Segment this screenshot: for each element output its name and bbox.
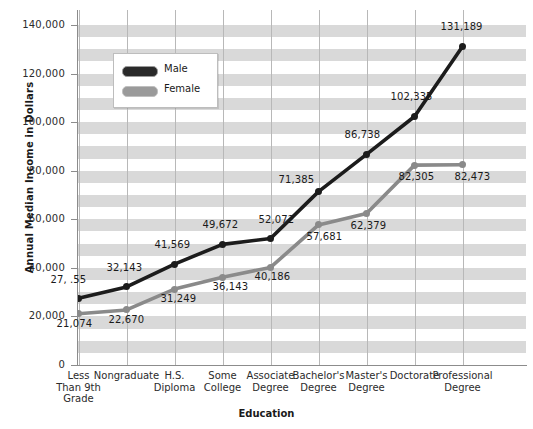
income-by-education-line-chart: 020,00040,00060,00080,000100,000120,0001… (0, 0, 533, 429)
y-axis-tick-label: 120,000 (5, 68, 65, 79)
x-axis-line (77, 365, 527, 366)
category-label-line: Grade (42, 393, 116, 405)
legend-swatch-female-icon (122, 86, 158, 97)
data-label-male: 52,072 (259, 214, 295, 225)
data-point-female (219, 274, 226, 281)
y-axis-tick (71, 219, 77, 220)
category-label-line: Degree (330, 382, 404, 394)
data-point-female (171, 286, 178, 293)
data-label-male: 71,385 (279, 174, 315, 185)
data-label-male: 41,569 (155, 239, 191, 250)
y-axis-tick (71, 122, 77, 123)
data-label-female: 57,681 (307, 231, 343, 242)
legend-label-female: Female (164, 83, 200, 94)
y-axis-tick-label: 80,000 (5, 165, 65, 176)
y-axis-tick (71, 74, 77, 75)
data-point-female (267, 264, 274, 271)
y-axis-tick-label: 100,000 (5, 116, 65, 127)
y-axis-tick-label: 40,000 (5, 262, 65, 273)
y-axis-title: Annual Median Income in Dollars (24, 63, 35, 293)
y-axis-tick-label: 140,000 (5, 19, 65, 30)
data-label-female: 82,305 (399, 171, 435, 182)
data-label-female: 21,074 (57, 318, 93, 329)
data-label-male: 131,189 (441, 21, 483, 32)
legend-swatch-male-icon (122, 66, 158, 77)
data-point-female (411, 162, 418, 169)
y-axis-tick (71, 25, 77, 26)
y-axis-tick (71, 171, 77, 172)
data-label-male: 102,335 (391, 91, 433, 102)
x-axis-category-label: ProfessionalDegree (426, 370, 500, 393)
data-point-female (363, 210, 370, 217)
data-label-male: 27, .55 (51, 274, 87, 285)
data-label-female: 62,379 (351, 220, 387, 231)
y-axis-tick-label: 0 (5, 359, 65, 370)
data-point-male (411, 113, 418, 120)
legend-label-male: Male (164, 63, 188, 74)
data-label-male: 32,143 (107, 262, 143, 273)
data-point-male (459, 43, 466, 50)
y-axis-line (77, 10, 78, 365)
category-label-line: Than 9th (42, 382, 116, 394)
data-label-female: 36,143 (213, 281, 249, 292)
x-axis-title: Education (0, 408, 533, 419)
y-axis-tick (71, 365, 77, 366)
data-label-female: 22,670 (109, 314, 145, 325)
data-label-female: 40,186 (255, 271, 291, 282)
data-point-male (171, 261, 178, 268)
data-point-male (219, 241, 226, 248)
y-axis-tick-label: 60,000 (5, 213, 65, 224)
data-point-male (363, 151, 370, 158)
data-point-male (267, 235, 274, 242)
y-axis-tick (71, 268, 77, 269)
category-label-line: Professional (426, 370, 500, 382)
data-label-male: 86,738 (345, 129, 381, 140)
data-label-female: 31,249 (161, 293, 197, 304)
category-label-line: Degree (426, 382, 500, 394)
data-label-male: 49,672 (203, 219, 239, 230)
legend: Male Female (113, 53, 218, 108)
data-label-female: 82,473 (455, 171, 491, 182)
